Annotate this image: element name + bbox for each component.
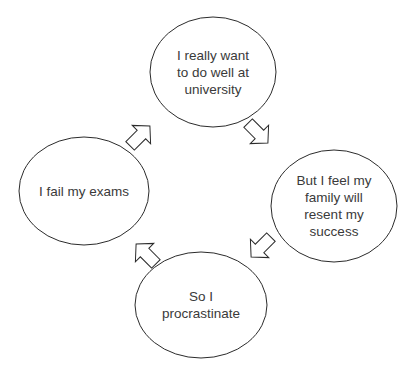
node-right: But I feel my family will resent my succ… — [271, 150, 397, 262]
node-right-line-2: family will — [305, 190, 363, 205]
node-label-top: I really want to do well at university — [169, 47, 257, 98]
node-top-line-1: I really want — [177, 48, 249, 63]
node-bottom: So I procrastinate — [135, 252, 267, 358]
node-bottom-line-2: procrastinate — [162, 306, 240, 321]
node-right-line-3: resent my — [304, 207, 363, 222]
node-right-line-4: success — [310, 224, 359, 239]
node-label-left: I fail my exams — [31, 183, 137, 200]
cycle-diagram: I really want to do well at university B… — [0, 0, 398, 371]
node-left-line-1: I fail my exams — [39, 184, 129, 199]
node-right-line-1: But I feel my — [296, 173, 371, 188]
node-label-bottom: So I procrastinate — [154, 288, 248, 322]
node-top: I really want to do well at university — [150, 17, 276, 127]
node-label-right: But I feel my family will resent my succ… — [288, 172, 379, 240]
node-top-line-2: to do well at — [177, 65, 249, 80]
node-left: I fail my exams — [19, 137, 149, 245]
node-bottom-line-1: So I — [189, 289, 213, 304]
node-top-line-3: university — [184, 82, 241, 97]
